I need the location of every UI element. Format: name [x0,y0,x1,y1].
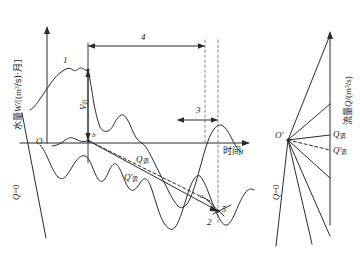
span-3-arrow-left [177,117,184,123]
right-origin-dot [286,138,289,141]
span-4-label: 4 [141,33,146,42]
left-y-axis-arrow [44,26,50,34]
fan-line-q [288,135,330,140]
point-5-dot [216,209,219,212]
span-3-label: 3 [196,106,201,115]
v-storage-label: V兴 [79,99,89,111]
left-q-regulated-prime-label: Q′调 [124,173,138,183]
curve-baseline-wiggle [52,138,88,146]
right-q-regulated-label: Q调 [333,130,346,140]
point-b-label: b [92,132,96,139]
curve-1-peak-dot [86,68,89,71]
curve-1-continuation [142,125,241,208]
fan-line-top [288,35,330,140]
right-q-regulated-prime-label: Q′调 [333,146,347,156]
curve-1-label: 1 [63,56,68,65]
left-q-zero-line [22,113,46,238]
fan-line-lower [288,140,330,178]
left-y-axis-label: 水量W/[(m3/s)·月] [14,60,23,130]
span-4-arrow-left [88,43,95,49]
span-4-arrow-right [198,43,205,49]
span-3-arrow-right [211,117,218,123]
right-y-axis-label: 流量Q/(m3/s) [344,76,353,125]
fan-line-q-prime [288,140,330,150]
left-q-zero-label: Q=0 [12,185,21,200]
right-q-zero-label: Q=0 [272,185,281,200]
chord-q-regulated-prime [89,141,212,202]
point-5-label: 5 [222,206,226,214]
curve-2-label: 2 [207,218,212,227]
fan-line-bottom-2 [288,140,330,236]
diagram-canvas: 水量W/[(m3/s)·月] O 时间t Q=0 1 2 4 3 5 a b V… [0,0,360,273]
left-q-regulated-label: Q调 [136,155,149,165]
point-a-label: a [200,193,204,200]
left-origin-label: O [36,137,43,146]
fan-line-bottom-1 [288,140,312,244]
right-origin-label: O′ [275,131,283,140]
point-b-dot [87,139,90,142]
diagram-vector-layer [0,0,360,273]
left-x-axis-label: 时间t [223,147,244,156]
fan-line-upper [288,104,330,140]
